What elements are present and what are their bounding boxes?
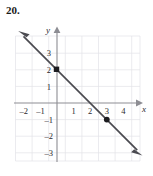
x-axis-label: x — [141, 104, 146, 114]
grid-lines — [16, 36, 141, 161]
y-tick-1: 1 — [47, 82, 51, 92]
x-tick--1: –1 — [35, 106, 45, 116]
y-axis-label: y — [45, 25, 50, 35]
point-3--1 — [104, 117, 110, 123]
graph-svg: y x –2 –1 1 2 3 4 3 2 1 –1 –2 –3 — [0, 0, 153, 176]
y-tick--1: –1 — [44, 115, 54, 125]
point-0-2 — [54, 67, 59, 72]
y-tick--3: –3 — [44, 148, 54, 158]
x-tick-1: 1 — [71, 106, 75, 116]
y-tick-3: 3 — [47, 48, 51, 58]
x-tick-4: 4 — [121, 106, 126, 116]
y-tick--2: –2 — [44, 131, 54, 141]
plotted-line — [18, 31, 142, 155]
coordinate-graph: y x –2 –1 1 2 3 4 3 2 1 –1 –2 –3 — [0, 0, 153, 176]
x-tick--2: –2 — [19, 106, 29, 116]
y-tick-2: 2 — [47, 65, 51, 75]
x-tick-labels: –2 –1 1 2 3 4 — [19, 106, 127, 116]
x-tick-2: 2 — [88, 106, 92, 116]
y-axis — [54, 27, 61, 163]
x-tick-3: 3 — [105, 106, 109, 116]
